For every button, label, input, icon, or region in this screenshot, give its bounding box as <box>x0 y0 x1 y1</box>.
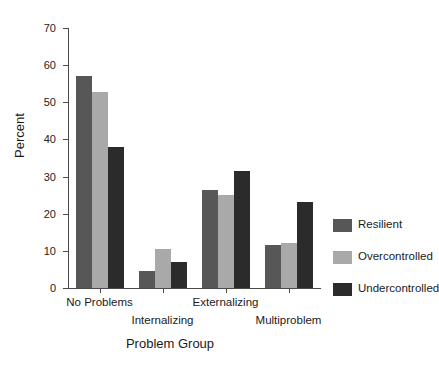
y-axis-tick-labels: 010203040506070 <box>0 28 58 289</box>
bar <box>92 92 108 288</box>
bar <box>76 76 92 288</box>
x-tick-3 <box>289 288 290 293</box>
y-tick-label-50: 50 <box>44 97 56 108</box>
bar <box>171 262 187 288</box>
bar <box>218 195 234 288</box>
x-axis-label-no-problems: No Problems <box>40 297 160 309</box>
legend-label: Undercontrolled <box>358 283 439 295</box>
legend-label: Overcontrolled <box>358 251 433 263</box>
bar <box>155 249 171 288</box>
bar <box>281 243 297 288</box>
bar <box>202 190 218 288</box>
legend-swatch-icon <box>333 219 352 232</box>
y-tick-0 <box>63 288 68 289</box>
x-axis-label-internalizing: Internalizing <box>103 315 223 327</box>
x-tick-2 <box>226 288 227 293</box>
x-axis-title: Problem Group <box>0 336 340 351</box>
x-axis-line <box>68 288 321 289</box>
y-axis-title: Percent <box>12 81 27 191</box>
bar <box>234 171 250 288</box>
bar <box>108 147 124 288</box>
legend-swatch-icon <box>333 283 352 296</box>
x-axis-label-externalizing: Externalizing <box>166 297 286 309</box>
legend: ResilientOvercontrolledUndercontrolled <box>333 216 429 312</box>
x-tick-0 <box>100 288 101 293</box>
legend-swatch-icon <box>333 251 352 264</box>
legend-item-overcontrolled[interactable]: Overcontrolled <box>333 248 429 266</box>
legend-item-undercontrolled[interactable]: Undercontrolled <box>333 280 429 298</box>
bar <box>297 202 313 288</box>
y-tick-label-10: 10 <box>44 246 56 257</box>
y-tick-label-20: 20 <box>44 209 56 220</box>
legend-item-resilient[interactable]: Resilient <box>333 216 429 234</box>
y-tick-label-40: 40 <box>44 134 56 145</box>
y-tick-label-60: 60 <box>44 60 56 71</box>
plot-area <box>68 28 320 288</box>
x-tick-1 <box>163 288 164 293</box>
legend-label: Resilient <box>358 219 402 231</box>
bar <box>265 245 281 288</box>
y-tick-label-30: 30 <box>44 172 56 183</box>
y-tick-label-0: 0 <box>50 283 56 294</box>
bar <box>139 271 155 288</box>
y-tick-label-70: 70 <box>44 23 56 34</box>
x-axis-label-multiproblem: Multiproblem <box>229 315 349 327</box>
